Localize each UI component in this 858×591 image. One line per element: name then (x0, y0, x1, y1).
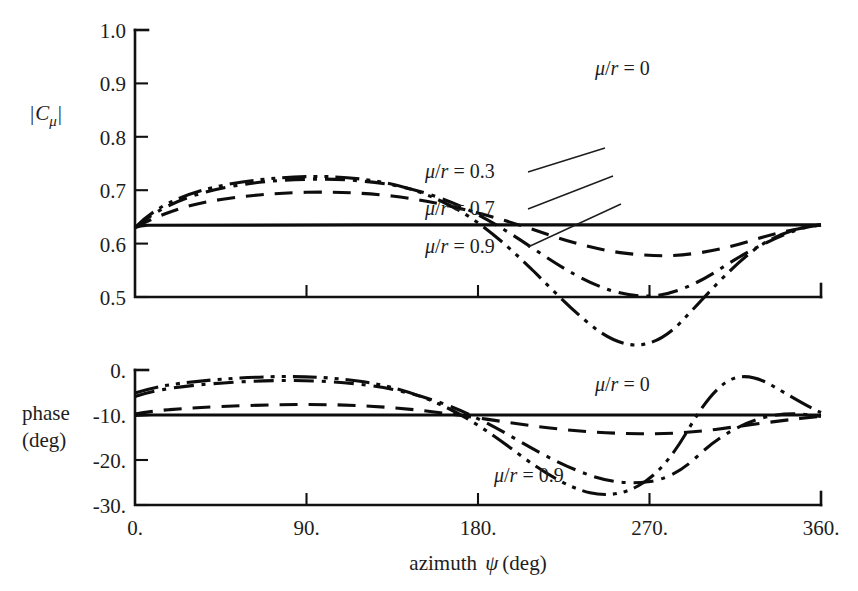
upper-ytick-0.8: 0.8 (100, 126, 126, 150)
upper-y-tick-labels: 1.0 0.9 0.8 0.7 0.6 0.5 (100, 19, 126, 310)
lower-y-axis-title: phase (deg) (22, 401, 70, 452)
lower-ytick--20: -20. (93, 449, 126, 473)
upper-panel: 1.0 0.9 0.8 0.7 0.6 0.5 |Cμ| μ/r = 0 (30, 19, 821, 345)
upper-ytick-0.9: 0.9 (100, 72, 126, 96)
lower-ytick--10: -10. (93, 404, 126, 428)
upper-ytick-0.7: 0.7 (100, 179, 126, 203)
svg-text:|Cμ|: |Cμ| (30, 101, 62, 129)
lower-ytick-0: 0. (110, 359, 126, 383)
upper-leader-0.3 (528, 148, 605, 172)
figure-root: 1.0 0.9 0.8 0.7 0.6 0.5 |Cμ| μ/r = 0 (0, 0, 858, 591)
upper-curve-mu-r-0 (135, 225, 821, 228)
upper-label-mu-r-0.3: μ/r = 0.3 (424, 160, 495, 183)
lower-y-ticks (135, 415, 148, 505)
xtick-360: 360. (803, 516, 840, 540)
upper-label-mu-r-0.7: μ/r = 0.7 (424, 197, 495, 220)
lower-y-title-line2: (deg) (22, 428, 66, 452)
upper-ytick-0.6: 0.6 (100, 233, 126, 257)
upper-leader-0.7 (528, 176, 613, 209)
x-tick-labels: 0. 90. 180. 270. 360. (127, 516, 839, 540)
lower-curve-mu-r-0.9 (135, 377, 821, 495)
upper-label-mu-r-0: μ/r = 0 (594, 57, 650, 80)
lower-curve-mu-r-0.7 (135, 381, 821, 483)
x-axis-title: azimuth ψ(deg) (409, 551, 546, 575)
xtick-90: 90. (293, 516, 319, 540)
xtick-270: 270. (631, 516, 668, 540)
lower-curves (135, 377, 821, 495)
upper-y-ticks (135, 83, 148, 297)
lower-label-mu-r-0.9: μ/r = 0.9 (493, 464, 564, 487)
upper-ytick-0.5: 0.5 (100, 286, 126, 310)
lower-label-mu-r-0: μ/r = 0 (594, 373, 650, 396)
lower-y-tick-labels: 0. -10. -20. -30. (93, 359, 126, 518)
upper-ytick-1.0: 1.0 (100, 19, 126, 43)
lower-y-title-line1: phase (22, 401, 70, 425)
xtick-180: 180. (460, 516, 497, 540)
lower-curve-mu-r-0 (135, 415, 821, 416)
upper-label-mu-r-0.9: μ/r = 0.9 (424, 235, 495, 258)
xtick-0: 0. (127, 516, 143, 540)
upper-annotations: μ/r = 0 μ/r = 0.3 μ/r = 0.7 μ/r = 0.9 (424, 57, 650, 258)
lower-ytick--30: -30. (93, 494, 126, 518)
upper-y-axis-title: |Cμ| (30, 101, 62, 129)
lower-panel: 0. -10. -20. -30. phase (deg) μ/r = 0 μ/… (22, 359, 839, 575)
